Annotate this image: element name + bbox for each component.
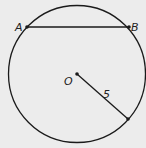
label-radius: 5 [103, 88, 110, 101]
label-b: B [131, 21, 139, 34]
label-o: O [64, 75, 73, 88]
radius-endpoint [126, 117, 130, 121]
point-o [75, 72, 79, 76]
point-a [25, 25, 29, 29]
label-a: A [14, 21, 23, 34]
circle-diagram: A B O 5 [0, 0, 146, 148]
